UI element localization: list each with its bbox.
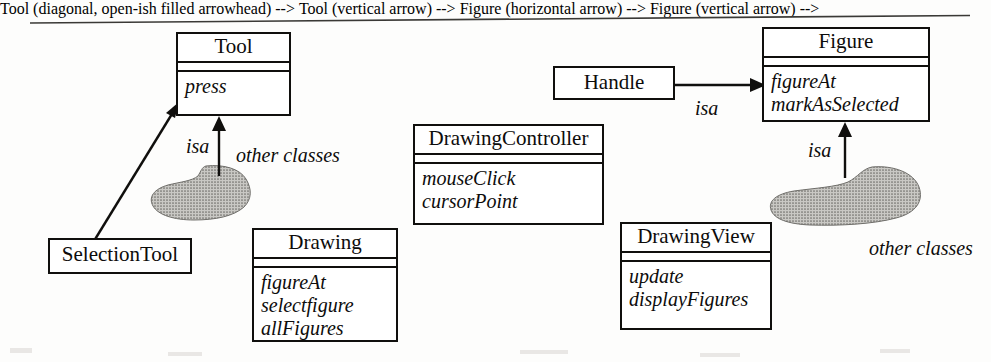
scan-page-rule xyxy=(30,14,970,24)
scan-noise-speck xyxy=(700,353,740,357)
class-box-drawing[interactable]: Drawing figureAt selectfigure allFigures xyxy=(252,228,398,342)
class-name-drawingview: DrawingView xyxy=(622,224,770,251)
class-name-handle: Handle xyxy=(555,68,673,99)
class-name-figure: Figure xyxy=(764,29,928,56)
class-attributes-compartment xyxy=(622,253,770,262)
class-operations-figure: figureAt markAsSelected xyxy=(764,67,928,120)
class-attributes-compartment xyxy=(254,259,396,268)
operation-item: allFigures xyxy=(261,317,394,340)
scan-noise-speck xyxy=(880,349,910,353)
operation-item: displayFigures xyxy=(629,288,768,311)
class-operations-drawingview: update displayFigures xyxy=(622,262,770,315)
blob-label-other-classes-left: other classes xyxy=(236,145,340,165)
class-box-tool[interactable]: Tool press xyxy=(176,32,291,116)
operation-item: cursorPoint xyxy=(422,190,600,213)
class-box-figure[interactable]: Figure figureAt markAsSelected xyxy=(762,27,930,122)
relation-label-isa-figure-handle: isa xyxy=(695,98,718,118)
class-attributes-compartment xyxy=(764,58,928,67)
connector-selectiontool-isa-tool xyxy=(80,95,190,245)
class-box-handle[interactable]: Handle xyxy=(553,66,675,100)
operation-item: selectfigure xyxy=(261,294,394,317)
class-name-selectiontool: SelectionTool xyxy=(50,240,190,271)
class-name-drawingcontroller: DrawingController xyxy=(415,126,602,153)
other-classes-blob-left xyxy=(148,163,272,225)
uml-class-diagram-canvas: Tool (diagonal, open-ish filled arrowhea… xyxy=(0,0,991,362)
relation-label-isa-tool: isa xyxy=(186,136,209,156)
class-attributes-compartment xyxy=(178,63,289,72)
blob-label-other-classes-right: other classes xyxy=(869,238,973,258)
operation-item: markAsSelected xyxy=(771,93,926,116)
class-name-drawing: Drawing xyxy=(254,230,396,257)
connector-otherclasses-isa-figure xyxy=(834,120,856,178)
scan-noise-speck xyxy=(520,350,568,354)
class-operations-tool: press xyxy=(178,72,289,102)
class-operations-drawing: figureAt selectfigure allFigures xyxy=(254,268,396,345)
class-box-selectiontool[interactable]: SelectionTool xyxy=(48,238,192,274)
operation-item: figureAt xyxy=(261,271,394,294)
operation-item: mouseClick xyxy=(422,167,600,190)
class-box-drawingview[interactable]: DrawingView update displayFigures xyxy=(620,222,772,330)
other-classes-blob-right xyxy=(768,163,926,229)
operation-item: update xyxy=(629,265,768,288)
scan-noise-speck xyxy=(10,348,32,353)
class-attributes-compartment xyxy=(415,155,602,164)
relation-label-isa-figure-otherclasses: isa xyxy=(808,140,831,160)
class-box-drawingcontroller[interactable]: DrawingController mouseClick cursorPoint xyxy=(413,124,604,225)
connector-otherclasses-isa-tool xyxy=(208,114,230,176)
operation-item: figureAt xyxy=(771,70,926,93)
class-operations-drawingcontroller: mouseClick cursorPoint xyxy=(415,164,602,217)
scan-noise-speck xyxy=(168,352,202,356)
class-name-tool: Tool xyxy=(178,34,289,61)
connector-handle-isa-figure xyxy=(672,74,768,96)
operation-item: press xyxy=(185,75,287,98)
